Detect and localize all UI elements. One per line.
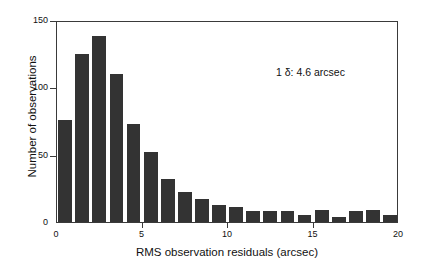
y-axis-tick-label: 50 (8, 151, 48, 160)
histogram-bar (383, 215, 397, 222)
histogram-bar (281, 211, 295, 222)
histogram-bar (144, 152, 158, 222)
x-axis-tick-label: 0 (41, 230, 71, 239)
histogram-bar (92, 36, 106, 222)
histogram-figure: Number of observations 050100150 1 δ: 4.… (0, 0, 422, 271)
histogram-bar (110, 74, 124, 222)
histogram-bar (298, 215, 312, 222)
histogram-bar (229, 207, 243, 222)
histogram-bar (315, 210, 329, 222)
histogram-bar (75, 54, 89, 222)
histogram-bar (263, 211, 277, 222)
x-axis-tick (142, 223, 143, 228)
y-axis-title: Number of observations (26, 22, 39, 212)
histogram-bar (246, 211, 260, 222)
x-axis-tick-label: 20 (383, 230, 413, 239)
x-axis-title: RMS observation residuals (arcsec) (56, 246, 398, 259)
histogram-bar (332, 217, 346, 222)
x-axis-tick-label: 5 (127, 230, 157, 239)
x-axis-tick-label: 15 (298, 230, 328, 239)
histogram-bar (195, 199, 209, 222)
bar-series (57, 22, 397, 222)
x-axis-tick (313, 223, 314, 228)
y-axis-tick-label: 150 (8, 16, 48, 25)
histogram-bar (212, 205, 226, 223)
y-axis-tick-label: 100 (8, 83, 48, 92)
plot-area (56, 21, 398, 223)
x-axis-tick (227, 223, 228, 228)
histogram-bar (58, 120, 72, 222)
sigma-annotation: 1 δ: 4.6 arcsec (276, 66, 345, 78)
y-axis-tick-label: 0 (8, 218, 48, 227)
histogram-bar (127, 124, 141, 222)
histogram-bar (349, 211, 363, 222)
histogram-bar (366, 210, 380, 222)
histogram-bar (178, 192, 192, 222)
x-axis-tick-label: 10 (212, 230, 242, 239)
histogram-bar (161, 179, 175, 222)
